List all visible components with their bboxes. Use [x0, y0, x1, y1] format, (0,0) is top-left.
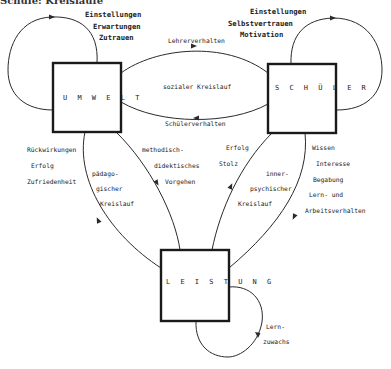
social-cycle: Lehrerverhalten sozialer Kreislauf Schül…: [121, 37, 268, 127]
stolz-label: Stolz: [219, 160, 238, 167]
paedagogisch-label-2: gischer: [96, 185, 123, 193]
innerpsychisch-label-3: Kreislauf: [238, 200, 272, 207]
wissen-label: Wissen: [312, 144, 335, 151]
umwelt-loop-label-3: Zutrauen: [99, 33, 134, 42]
arrow-icon: [330, 16, 336, 21]
schueler-label: S C H Ü L E R: [275, 83, 369, 92]
arrow-icon: [191, 44, 197, 49]
methodisch-label-2: didektisches: [154, 162, 200, 169]
innerpsychisch-label-1: inner-: [266, 170, 289, 177]
social-cycle-label: sozialer Kreislauf: [163, 83, 231, 90]
feedback-cycle-diagram: Schule: Kreisläufe Einstellungen Erwartu…: [0, 0, 391, 369]
erfolg-left-label: Erfolg: [31, 162, 54, 170]
paedagogisch-label-3: Kreislauf: [100, 200, 134, 207]
title-partial: Schule: Kreisläufe: [0, 0, 103, 6]
lehrerverhalten-label: Lehrerverhalten: [168, 37, 225, 44]
schuelerverhalten-label: Schülerverhalten: [165, 120, 226, 127]
leistung-label: L E I S T U N G: [166, 278, 274, 286]
begabung-label: Begabung: [313, 176, 344, 184]
arrow-icon: [290, 213, 297, 221]
umwelt-node: U M W E L T: [53, 63, 142, 132]
psychic-cycle: Erfolg Stolz inner- psychischer Kreislau…: [212, 133, 366, 268]
lernzuwachs-label-2: zuwachs: [263, 338, 290, 345]
methodisch-label-1: methodisch-: [142, 146, 184, 153]
interesse-label: Interesse: [316, 160, 350, 167]
pedagogic-cycle: Rückwirkungen Erfolg Zufriedenheit pädag…: [27, 132, 200, 268]
zufriedenheit-label: Zufriedenheit: [27, 178, 76, 185]
schueler-loop-label-1: Einstellungen: [250, 7, 306, 16]
leistung-node: L E I S T U N G: [161, 250, 274, 321]
paedagogisch-label-1: pädago-: [92, 170, 119, 178]
umwelt-loop-label-1: Einstellungen: [85, 10, 141, 19]
arrow-icon: [94, 216, 101, 224]
arbeitsverhalten-label: Arbeitsverhalten: [305, 207, 366, 214]
innerpsychisch-label-2: psychischer: [250, 185, 292, 193]
umwelt-loop-label-2: Erwartungen: [93, 22, 141, 31]
arrow-icon: [49, 15, 55, 20]
lern-und-label: Lern- und: [309, 191, 343, 198]
schueler-node: S C H Ü L E R: [268, 64, 369, 133]
rueckwirkungen-label: Rückwirkungen: [27, 146, 76, 154]
schueler-loop-label-3: Motivation: [240, 30, 283, 39]
erfolg-right-label: Erfolg: [226, 144, 249, 152]
lernzuwachs-label-1: Lern-: [266, 323, 285, 330]
arrow-icon: [255, 332, 261, 338]
umwelt-label: U M W E L T: [63, 94, 142, 102]
schueler-loop-label-2: Selbstvertrauen: [228, 19, 293, 28]
methodisch-label-3: Vorgehen: [165, 178, 196, 186]
